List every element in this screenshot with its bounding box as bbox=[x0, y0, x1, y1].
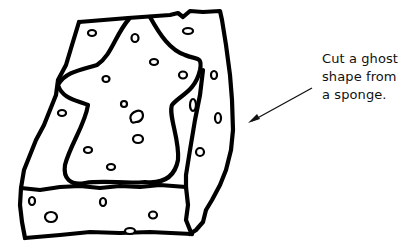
sponge-drawing-icon bbox=[20, 11, 233, 238]
sponge-illustration bbox=[0, 0, 415, 252]
caption-line-2: shape from bbox=[322, 68, 414, 86]
caption-line-3: a sponge. bbox=[322, 86, 414, 104]
arrow-pointer-icon bbox=[248, 88, 312, 123]
caption-line-1: Cut a ghost bbox=[322, 50, 414, 68]
instruction-caption: Cut a ghost shape from a sponge. bbox=[322, 50, 414, 104]
